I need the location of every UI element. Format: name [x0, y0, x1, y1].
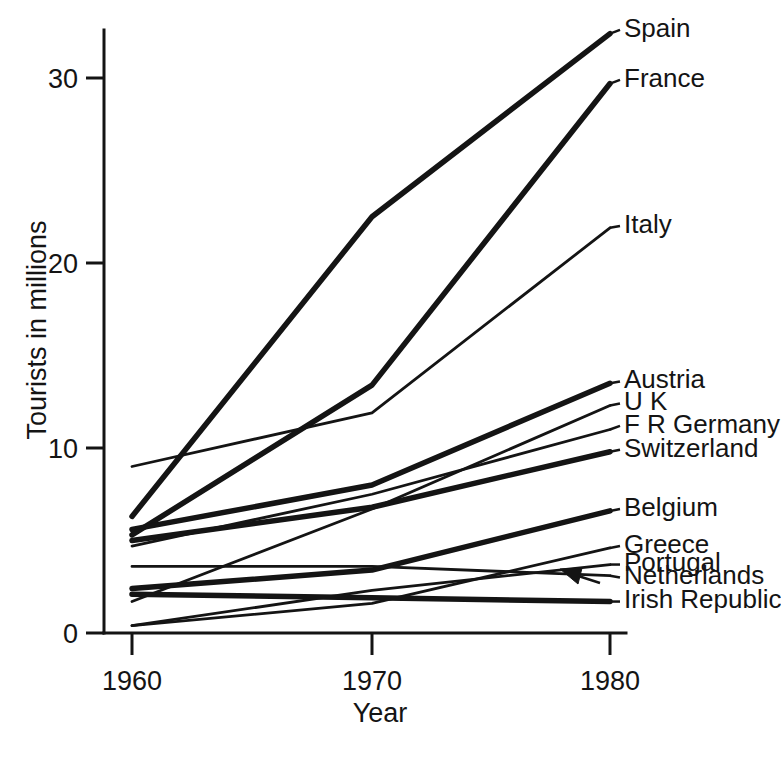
leader-italy [610, 226, 620, 228]
chart-canvas: 0102030 196019701980 SpainFranceItalyAus… [0, 0, 781, 761]
series-label-belgium: Belgium [624, 492, 718, 522]
series-label-group: SpainFranceItalyAustriaU KF R GermanySwi… [624, 13, 781, 615]
leader-f-r-germany [610, 426, 620, 430]
leader-spain [610, 30, 620, 34]
series-label-spain: Spain [624, 13, 691, 43]
y-tick-label-20: 20 [48, 249, 78, 279]
series-line-belgium [132, 511, 610, 589]
x-tick-label-1980: 1980 [580, 666, 640, 696]
leader-france [610, 80, 620, 84]
x-tick-label-1970: 1970 [342, 666, 402, 696]
y-tick-group [86, 78, 104, 633]
series-line-irish-republic [132, 594, 610, 601]
leader-netherlands [610, 576, 620, 578]
y-axis-title: Tourists in millions [22, 220, 52, 439]
leader-u-k [610, 404, 620, 406]
x-tick-label-group: 196019701980 [102, 666, 640, 696]
y-tick-label-0: 0 [63, 619, 78, 649]
x-tick-label-1960: 1960 [102, 666, 162, 696]
axes-group [104, 30, 626, 633]
series-line-spain [132, 34, 610, 517]
series-lines-group [132, 34, 610, 626]
line-chart-figure: 0102030 196019701980 SpainFranceItalyAus… [0, 0, 781, 761]
leader-lines-group [610, 30, 620, 602]
series-label-italy: Italy [624, 209, 672, 239]
y-tick-label-30: 30 [48, 64, 78, 94]
x-tick-group [132, 633, 610, 655]
series-label-switzerland: Switzerland [624, 433, 758, 463]
series-label-france: France [624, 63, 705, 93]
y-tick-label-group: 0102030 [48, 64, 78, 649]
y-tick-label-10: 10 [48, 434, 78, 464]
x-axis-title: Year [353, 698, 408, 728]
leader-greece [610, 546, 620, 548]
series-label-irish-republic: Irish Republic [624, 584, 781, 614]
